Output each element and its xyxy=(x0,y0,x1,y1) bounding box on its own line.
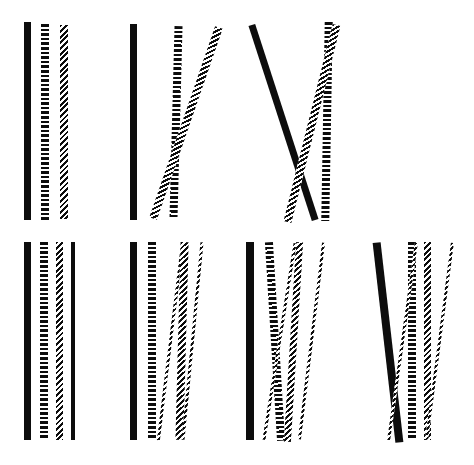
panel-1-bar-1-solid xyxy=(24,22,31,220)
panel-4-bar-2-stripe xyxy=(40,242,48,440)
panel-4-bar-1-solid xyxy=(24,242,31,440)
panel-1 xyxy=(0,0,120,232)
stimulus-figure xyxy=(0,0,474,465)
panel-6-bar-5-hatch xyxy=(298,243,325,440)
panel-2-bar-2-stripe xyxy=(169,26,182,219)
panel-6 xyxy=(238,232,356,465)
panel-2 xyxy=(120,0,240,232)
panel-1-bar-3-hatch xyxy=(60,25,68,219)
panel-5-bar-1-solid xyxy=(130,242,137,440)
panel-4-bar-3-hatch xyxy=(56,242,63,440)
panel-3-bar-3-hatch xyxy=(284,24,341,223)
panel-2-bar-1-solid xyxy=(130,24,137,220)
panel-3 xyxy=(240,0,360,232)
panel-5-bar-2-stripe xyxy=(148,242,156,440)
panel-2-bar-3-hatch xyxy=(149,26,222,220)
panel-6-bar-1-solid xyxy=(246,242,254,440)
panel-5 xyxy=(118,232,238,465)
panel-7-bar-1-solid xyxy=(373,242,404,443)
panel-7 xyxy=(356,232,474,465)
panel-1-bar-2-stripe xyxy=(41,24,49,220)
panel-4 xyxy=(0,232,118,465)
panel-4-bar-4-solid xyxy=(71,242,75,440)
